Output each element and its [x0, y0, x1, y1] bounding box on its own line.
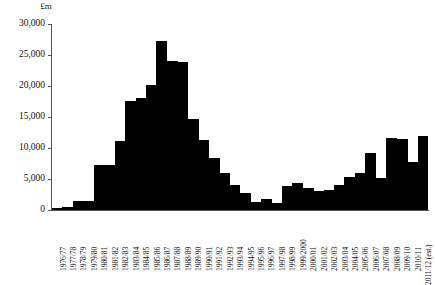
bar	[188, 119, 199, 210]
x-axis-tick-label: 1984/85	[143, 211, 151, 271]
x-axis-tick-label: 1989/90	[195, 211, 203, 271]
bar	[303, 188, 314, 210]
bar	[52, 208, 63, 210]
bar	[198, 140, 209, 210]
x-axis-tick-label: 2010/11	[415, 211, 423, 271]
x-axis-tick-label: 1979/80	[91, 211, 99, 271]
x-axis-tick-label: 1985/86	[154, 211, 162, 271]
bar	[156, 41, 167, 210]
x-axis-tick-label: 1980/81	[101, 211, 109, 271]
bar	[407, 162, 418, 210]
bar	[271, 203, 282, 210]
plot-area	[52, 24, 428, 210]
x-axis-tick-label: 1998/99	[289, 211, 297, 271]
x-axis-tick-label: 1996/97	[268, 211, 276, 271]
x-axis-tick-label: 1983/84	[133, 211, 141, 271]
x-axis-tick-label: 1982/83	[122, 211, 130, 271]
bar	[209, 158, 220, 210]
bar	[334, 185, 345, 210]
bar	[324, 190, 335, 210]
x-axis-tick-label: 2003/04	[342, 211, 350, 271]
x-axis-tick-label: 1990/91	[206, 211, 214, 271]
x-axis-tick-label: 1992/93	[227, 211, 235, 271]
bar	[167, 61, 178, 210]
x-axis-tick-label: 1988/89	[185, 211, 193, 271]
x-axis-tick-label: 1993/94	[237, 211, 245, 271]
x-axis-tick-label: 1995/96	[258, 211, 266, 271]
bar	[62, 207, 73, 210]
bar	[115, 141, 126, 210]
bar	[365, 153, 376, 210]
bar	[240, 193, 251, 210]
x-axis-tick-label: 1999/2000	[300, 211, 308, 271]
x-axis-tick-label: 1977/78	[70, 211, 78, 271]
y-axis-tick-label: 20,000	[19, 80, 45, 91]
bar	[282, 186, 293, 210]
bar	[83, 201, 94, 210]
bar	[104, 165, 115, 210]
x-axis-tick-label: 2002/03	[331, 211, 339, 271]
x-axis-tick-label: 2011/12 (est.)	[425, 211, 433, 285]
x-axis-tick-label: 1991/92	[216, 211, 224, 271]
bar	[136, 98, 147, 210]
bar	[397, 139, 408, 210]
y-axis-tick-label: 25,000	[19, 49, 45, 60]
y-axis-tick-label: 10,000	[19, 142, 45, 153]
y-axis-unit-label: £m	[26, 1, 66, 11]
x-axis-tick-label: 1978/79	[80, 211, 88, 271]
x-axis-tick-label: 2001/02	[321, 211, 329, 271]
bar	[230, 185, 241, 210]
bar	[177, 62, 188, 210]
y-axis-tick-label: 30,000	[19, 18, 45, 29]
x-axis-tick-label: 1976/77	[60, 211, 68, 271]
bar	[386, 138, 397, 210]
bar	[344, 177, 355, 210]
y-axis-tick-label: 15,000	[19, 111, 45, 122]
bar	[94, 165, 105, 210]
x-axis-tick-label: 1981/82	[112, 211, 120, 271]
x-axis-tick-label: 1986/87	[164, 211, 172, 271]
x-axis-tick-label: 2006/07	[373, 211, 381, 271]
bar	[125, 101, 136, 210]
x-axis-tick-label: 1994/95	[248, 211, 256, 271]
x-axis-tick-label: 2007/08	[383, 211, 391, 271]
x-axis-tick-label: 2004/05	[352, 211, 360, 271]
bar	[250, 202, 261, 210]
y-axis-tick-label: 0	[40, 204, 45, 215]
x-axis-tick-label: 2000/01	[310, 211, 318, 271]
bar	[355, 173, 366, 210]
y-axis-tick-label: 5,000	[24, 173, 45, 184]
x-axis-tick-label: 2005/06	[362, 211, 370, 271]
x-axis-tick-label: 2009/10	[404, 211, 412, 271]
bar	[418, 136, 429, 210]
bar	[73, 201, 84, 210]
x-axis-tick-label: 1987/88	[174, 211, 182, 271]
x-axis-labels: 1976/771977/781978/791979/801980/811981/…	[52, 211, 428, 271]
bar	[376, 178, 387, 210]
x-axis-tick-label: 1997/98	[279, 211, 287, 271]
bar	[146, 85, 157, 210]
x-axis-tick-label: 2008/09	[394, 211, 402, 271]
bar	[292, 183, 303, 210]
bar	[219, 173, 230, 210]
bar	[313, 191, 324, 210]
bar	[261, 199, 272, 210]
